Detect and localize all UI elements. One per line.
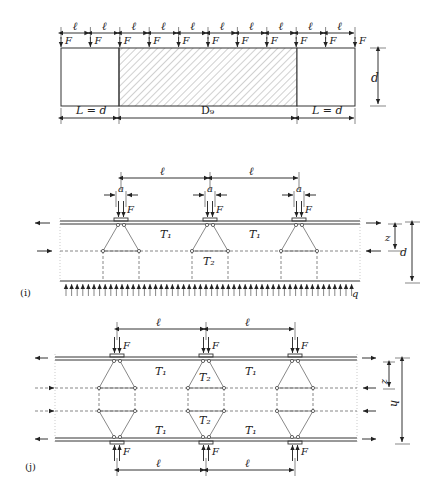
force-label: F (122, 340, 131, 351)
lever-arm-dimension-i: z d (384, 222, 420, 283)
spacing-label: ℓ (249, 20, 254, 33)
depth-label: d (371, 71, 379, 85)
plate-width-label: a (207, 183, 213, 194)
spacing-dimension-j-bottom: ℓ ℓ (117, 457, 295, 476)
figure-i: ℓ ℓ FaFaFa T₁ T₁ T₂ q z (20, 165, 420, 299)
left-region-label: L = d (75, 104, 107, 117)
spacing-label: ℓ (132, 20, 137, 33)
strut-and-tie-diagram: ℓℓℓℓℓℓℓℓℓℓ FFFFFFFFFFF d L = d D₉ L = d (0, 0, 431, 489)
force-label: F (64, 35, 73, 46)
beam-right-region (297, 48, 355, 106)
depth-label: d (400, 246, 407, 259)
tie-label: T₁ (249, 228, 261, 241)
force-label: F (240, 35, 249, 46)
panel-label-j: (j) (25, 461, 36, 472)
lever-arm-label: z (384, 232, 391, 243)
load-plates-j: FFFFFF (110, 337, 309, 461)
spacing-label: ℓ (308, 20, 313, 33)
force-label: F (358, 35, 367, 46)
spacing-label: ℓ (160, 165, 165, 178)
spacing-label: ℓ (220, 20, 225, 33)
spacing-label: ℓ (249, 165, 254, 178)
tie-label: T₁ (245, 424, 257, 437)
depth-dimension: d (370, 48, 386, 106)
spacing-label: ℓ (245, 316, 250, 329)
force-label: F (211, 446, 220, 457)
force-label: F (270, 35, 279, 46)
truss-i (101, 223, 318, 281)
spacing-label: ℓ (337, 20, 342, 33)
force-label: F (126, 204, 135, 215)
force-label: F (211, 340, 220, 351)
spacing-label: ℓ (102, 20, 107, 33)
force-label: F (304, 204, 313, 215)
force-label: F (215, 204, 224, 215)
figure-j: ℓ ℓ FFFFFF T₁ T₁ T₂ T₂ T₁ T₁ (25, 316, 410, 476)
spacing-label: ℓ (156, 457, 161, 470)
spacing-label: ℓ (73, 20, 78, 33)
right-region-label: L = d (311, 104, 343, 117)
spacing-dimension-j-top: ℓ ℓ (117, 316, 295, 340)
spacing-label: ℓ (161, 20, 166, 33)
tie-label: T₁ (160, 228, 172, 241)
lever-arm-dimension-j: z h (380, 358, 410, 444)
figure-top: ℓℓℓℓℓℓℓℓℓℓ FFFFFFFFFFF d L = d D₉ L = d (61, 20, 386, 124)
strut-label: T₂ (199, 371, 211, 384)
lever-arm-label: z (380, 378, 391, 385)
height-label: h (388, 400, 401, 407)
force-label: F (123, 35, 132, 46)
region-dimensions: L = d D₉ L = d (61, 104, 355, 124)
beam-left-region (61, 48, 119, 106)
force-label: F (93, 35, 102, 46)
strut-label: T₂ (199, 414, 211, 427)
load-plates-i: FaFaFa (104, 183, 316, 221)
force-row: FFFFFFFFFFF (61, 35, 367, 47)
force-label: F (300, 340, 309, 351)
distributed-load-label: q (352, 288, 358, 299)
strut-label: T₂ (203, 255, 215, 268)
force-label: F (152, 35, 161, 46)
spacing-label: ℓ (279, 20, 284, 33)
spacing-label: ℓ (190, 20, 195, 33)
d-region-label: D₉ (201, 104, 215, 117)
tie-label: T₁ (245, 365, 257, 378)
tie-label: T₁ (155, 424, 167, 437)
force-label: F (329, 35, 338, 46)
force-label: F (182, 35, 191, 46)
force-label: F (122, 446, 131, 457)
force-label: F (299, 35, 308, 46)
distributed-load-arrows (66, 284, 352, 296)
force-label: F (300, 446, 309, 457)
spacing-label: ℓ (245, 457, 250, 470)
force-label: F (211, 35, 220, 46)
tie-label: T₁ (155, 365, 167, 378)
plate-width-label: a (296, 183, 302, 194)
spacing-dimension-row: ℓℓℓℓℓℓℓℓℓℓ (61, 20, 355, 39)
plate-width-label: a (118, 183, 124, 194)
spacing-label: ℓ (156, 316, 161, 329)
beam-d-region (119, 48, 297, 106)
panel-label-i: (i) (20, 287, 31, 298)
